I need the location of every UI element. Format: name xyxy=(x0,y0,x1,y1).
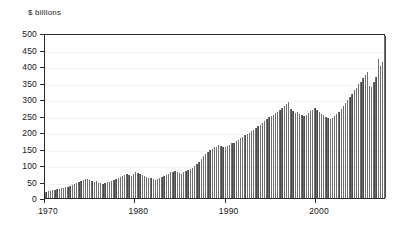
bar xyxy=(161,177,162,198)
bar xyxy=(325,117,326,198)
bar xyxy=(257,126,258,198)
bar xyxy=(262,123,263,198)
bar xyxy=(299,114,300,198)
bar xyxy=(249,133,250,198)
bar xyxy=(187,170,188,198)
bar xyxy=(198,162,199,198)
bar xyxy=(179,173,180,198)
bar xyxy=(369,86,370,198)
bar xyxy=(288,102,289,198)
bar xyxy=(45,192,46,198)
bar xyxy=(144,176,145,198)
y-axis-tick-label: 300 xyxy=(22,95,37,105)
bar xyxy=(205,154,206,198)
bar xyxy=(168,174,169,198)
y-axis-unit-label: $ billions xyxy=(28,8,61,17)
bar xyxy=(131,176,132,198)
bar xyxy=(96,181,97,198)
y-axis-tick-label: 50 xyxy=(27,178,37,188)
bar xyxy=(336,114,337,198)
bar xyxy=(109,182,110,199)
bar xyxy=(338,112,339,198)
bar xyxy=(87,179,88,198)
x-axis-tick-label: 1980 xyxy=(128,206,148,216)
bar xyxy=(157,179,158,198)
bar xyxy=(373,82,374,198)
bar xyxy=(273,115,274,198)
bar xyxy=(218,145,219,198)
bar xyxy=(303,116,304,198)
bar xyxy=(286,104,287,198)
bar xyxy=(148,178,149,198)
bar xyxy=(242,137,243,198)
bar xyxy=(284,106,285,198)
bar xyxy=(349,97,350,198)
bar xyxy=(231,143,232,198)
bar xyxy=(100,183,101,198)
bar xyxy=(332,118,333,198)
x-axis-tick xyxy=(225,199,226,203)
bar xyxy=(343,106,344,198)
bar xyxy=(174,171,175,198)
bar xyxy=(367,72,368,198)
bar xyxy=(111,181,112,198)
bar xyxy=(264,121,265,198)
bar xyxy=(120,177,121,198)
bar xyxy=(212,149,213,199)
bar xyxy=(194,166,195,198)
bar xyxy=(163,176,164,198)
y-axis-tick-label: 200 xyxy=(22,128,37,138)
bar xyxy=(308,113,309,198)
bar xyxy=(306,115,307,198)
y-axis-tick-label: 250 xyxy=(22,112,37,122)
x-axis-tick xyxy=(315,199,316,203)
bar xyxy=(181,174,182,198)
bar xyxy=(382,62,383,198)
bar xyxy=(78,182,79,198)
bar xyxy=(190,169,191,198)
bar xyxy=(277,112,278,198)
y-axis-tick-label: 450 xyxy=(22,46,37,56)
bar xyxy=(378,59,379,198)
x-axis-tick-label: 1970 xyxy=(38,206,58,216)
x-axis-tick-label: 1990 xyxy=(219,206,239,216)
bar xyxy=(94,182,95,199)
bar xyxy=(63,188,64,198)
bar xyxy=(98,183,99,198)
bar xyxy=(124,175,125,198)
bar xyxy=(192,168,193,198)
bar xyxy=(295,113,296,198)
bar xyxy=(375,77,376,198)
bar xyxy=(354,90,355,198)
bar xyxy=(253,130,254,198)
bar xyxy=(334,116,335,198)
bar xyxy=(139,174,140,198)
bar xyxy=(153,179,154,198)
bar xyxy=(236,141,237,198)
y-axis-tick-label: 400 xyxy=(22,62,37,72)
bar xyxy=(52,190,53,198)
bar xyxy=(316,110,317,198)
bar xyxy=(48,191,49,198)
x-axis-tick-label: 2000 xyxy=(309,206,329,216)
bar xyxy=(126,174,127,198)
bar xyxy=(150,178,151,198)
bar xyxy=(85,179,86,198)
bar xyxy=(196,164,197,198)
bar xyxy=(183,172,184,198)
bar xyxy=(371,87,372,198)
bar xyxy=(65,187,66,198)
bar xyxy=(347,100,348,198)
bar xyxy=(323,115,324,198)
bar xyxy=(297,112,298,198)
bar xyxy=(69,186,70,198)
bar xyxy=(113,180,114,198)
bar xyxy=(225,147,226,198)
bar xyxy=(222,147,223,198)
bar xyxy=(238,140,239,198)
bar xyxy=(330,119,331,198)
bar xyxy=(159,178,160,198)
bar xyxy=(290,109,291,198)
bar xyxy=(268,117,269,198)
bar xyxy=(341,109,342,198)
